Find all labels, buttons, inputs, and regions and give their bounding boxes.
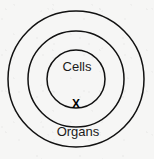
concentric-circles-diagram: Cells X Organs [0, 0, 154, 159]
inner-circle-label: Cells [63, 59, 92, 74]
outer-circle-label: Organs [57, 124, 100, 139]
middle-circle [28, 31, 124, 127]
middle-ring-marker-x: X [72, 97, 80, 111]
diagram-canvas: Cells X Organs [0, 0, 154, 159]
